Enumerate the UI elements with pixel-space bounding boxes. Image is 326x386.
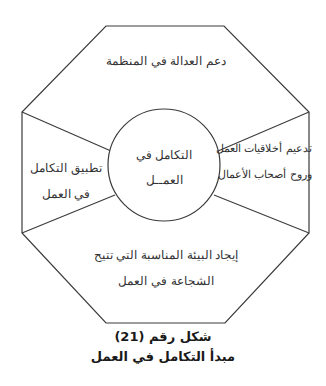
segment-top-line1: دعم العدالة في المنظمة — [96, 50, 236, 73]
segment-left-line1: تطبيق التكامل — [28, 155, 104, 181]
figure-title: مبدأ التكامل في العمل — [0, 349, 326, 364]
spoke-top-left — [22, 112, 111, 151]
segment-left-line2: في العمل — [28, 181, 104, 207]
figure-number: شكل رقم (21) — [0, 329, 326, 344]
segment-top-label: دعم العدالة في المنظمة — [96, 50, 236, 73]
segment-right-line2: وروح أصحاب الأعمال — [222, 162, 312, 188]
spoke-bottom-right — [214, 195, 309, 233]
center-line1: التكامل في — [124, 143, 204, 168]
segment-bottom-line2: الشجاعة في العمل — [86, 268, 246, 294]
center-label: التكامل في العمــل — [124, 143, 204, 193]
segment-bottom-line1: إيجاد البيئة المناسبة التي تتيح — [86, 242, 246, 268]
segment-left-label: تطبيق التكامل في العمل — [28, 155, 104, 207]
segment-right-line1: تدعيم أخلاقيات العمل — [222, 136, 312, 162]
segment-right-label: تدعيم أخلاقيات العمل وروح أصحاب الأعمال — [222, 136, 312, 188]
segment-bottom-label: إيجاد البيئة المناسبة التي تتيح الشجاعة … — [86, 242, 246, 294]
center-line2: العمــل — [124, 168, 204, 193]
